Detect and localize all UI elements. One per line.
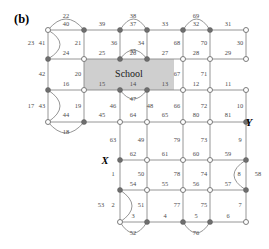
school-label: School [115,68,143,79]
edge-label: 10 [237,102,243,109]
edge-label: 1 [111,170,114,177]
edge-label: 67 [174,70,181,77]
edge-label: 31 [225,20,231,27]
edge-label: 19 [75,102,81,109]
edge-label: 50 [138,170,144,177]
edge-label: 66 [174,102,180,109]
edge-label: 3 [131,212,134,219]
network-diagram: 2240234121393638373435336932687031302442… [0,0,269,249]
edge-label: 51 [138,201,144,208]
node-filled [208,28,213,33]
edge-label: 12 [193,80,199,87]
edge-label: 78 [174,170,180,177]
edge-label: 57 [225,180,232,187]
node-filled [145,220,150,225]
edge-label: 7 [238,201,242,208]
node-filled [118,158,123,163]
node-hollow [208,120,213,125]
graph-arc [120,190,132,222]
terminal-label-y: Y [246,117,254,128]
node-filled [244,188,249,193]
edge-label: 46 [110,102,116,109]
node-filled [118,57,123,62]
edge-label: 69 [193,12,199,19]
edge-label: 42 [39,70,45,77]
edge-label: 34 [138,39,145,46]
terminal-label-x: X [100,155,109,166]
node-filled [181,28,186,33]
edge-label: 68 [174,39,180,46]
node-hollow [208,188,213,193]
edge-label: 73 [201,136,207,143]
edge-label: 74 [201,170,208,177]
edge-label: 26 [130,49,136,56]
node-filled [118,188,123,193]
edge-label: 39 [99,20,105,27]
edge-label: 53 [98,201,104,208]
edge-label: 56 [193,180,199,187]
edge-label: 32 [193,20,199,27]
edge-label: 20 [75,70,81,77]
node-hollow [244,220,249,225]
node-hollow [145,120,150,125]
node-hollow [46,120,51,125]
edge-label: 40 [63,20,69,27]
edge-label: 13 [162,80,168,87]
node-filled [118,88,123,93]
node-hollow [181,188,186,193]
edge-label: 24 [63,49,70,56]
node-filled [82,120,87,125]
edge-label: 41 [39,39,45,46]
edge-label: 37 [130,20,137,27]
edge-label: 76 [193,229,199,236]
node-hollow [181,158,186,163]
edge-label: 61 [162,150,168,157]
node-hollow [208,57,213,62]
edge-label: 63 [110,136,116,143]
graph-arc [48,30,60,59]
node-hollow [145,158,150,163]
node-filled [46,88,51,93]
edge-label: 38 [130,12,136,19]
edge-label: 55 [162,180,168,187]
edge-label: 6 [226,212,229,219]
edge-label: 49 [138,136,144,143]
edge-label: 5 [194,212,197,219]
node-filled [244,158,249,163]
edge-label: 17 [28,102,35,109]
node-hollow [181,57,186,62]
node-filled [145,88,150,93]
edge-label: 30 [237,39,243,46]
edge-label: 28 [193,49,199,56]
node-hollow [82,88,87,93]
edge-label: 75 [201,201,207,208]
node-filled [145,57,150,62]
edge-label: 58 [255,170,261,177]
edge-label: 2 [111,201,114,208]
node-hollow [208,158,213,163]
edge-label: 16 [63,80,69,87]
edge-label: 21 [75,39,81,46]
edge-label: 52 [130,229,136,236]
edge-label: 59 [225,150,231,157]
edge-label: 14 [130,80,137,87]
edge-label-layer: 2240234121393638373435336932687031302442… [28,12,261,236]
node-filled [118,28,123,33]
figure-panel-b: 2240234121393638373435336932687031302442… [0,0,269,249]
node-hollow [244,28,249,33]
edge-label: 81 [225,111,231,118]
edge-label: 27 [162,49,169,56]
node-hollow [181,88,186,93]
edge-label: 8 [237,170,240,177]
edge-label: 65 [162,111,168,118]
node-hollow [82,57,87,62]
node-hollow [46,28,51,33]
edge-label: 9 [238,136,241,143]
node-hollow [244,57,249,62]
edge-label: 15 [99,80,105,87]
node-hollow [145,188,150,193]
node-hollow [118,220,123,225]
edge-label: 29 [225,49,231,56]
node-filled [181,220,186,225]
edge-label: 71 [201,70,207,77]
